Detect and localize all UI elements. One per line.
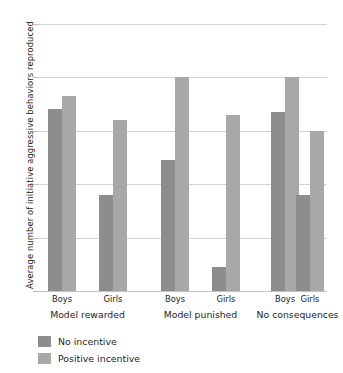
gridline bbox=[38, 291, 327, 292]
bar bbox=[212, 267, 226, 291]
bar bbox=[310, 131, 324, 291]
bar bbox=[226, 115, 240, 291]
x-axis-group-label: Model rewarded bbox=[28, 309, 148, 320]
legend: No incentive Positive incentive bbox=[38, 334, 140, 368]
legend-label: Positive incentive bbox=[58, 353, 140, 364]
bar bbox=[175, 77, 189, 291]
x-axis-tick-label: Girls bbox=[196, 294, 256, 304]
gridline bbox=[38, 24, 327, 25]
legend-swatch-icon bbox=[38, 336, 51, 347]
bar bbox=[48, 109, 62, 291]
legend-label: No incentive bbox=[58, 336, 117, 347]
legend-item-positive-incentive: Positive incentive bbox=[38, 351, 140, 366]
plot-area bbox=[38, 24, 327, 291]
x-axis-tick-label: Girls bbox=[280, 294, 340, 304]
x-axis-tick-label: Girls bbox=[83, 294, 143, 304]
bar bbox=[62, 96, 76, 291]
bar bbox=[113, 120, 127, 291]
bar bbox=[161, 160, 175, 291]
x-axis-group-label: No consequences bbox=[238, 309, 343, 320]
legend-item-no-incentive: No incentive bbox=[38, 334, 140, 349]
bar bbox=[271, 112, 285, 291]
y-axis-title: Average number of initiative aggressive … bbox=[25, 5, 35, 305]
legend-swatch-icon bbox=[38, 353, 51, 364]
bar bbox=[99, 195, 113, 291]
bar bbox=[296, 195, 310, 291]
